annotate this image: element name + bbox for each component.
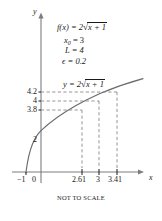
function-definition-annotation: f(x) = 2√x + 1	[57, 22, 107, 32]
y-tick-label-2: 2	[17, 136, 37, 144]
x-tick-label-3: 3	[96, 176, 100, 184]
y-tick-label-3-8: 3.8	[17, 106, 37, 114]
x-tick-label-2-61: 2.61	[72, 176, 86, 184]
y-axis-label: y	[33, 8, 37, 16]
x-axis-arrowhead	[138, 169, 144, 174]
x-tick-label-0: 0	[32, 176, 36, 184]
function-lead: f(x) = 2	[57, 22, 83, 32]
epsilon-annotation: ϵ = 0.2	[62, 57, 86, 66]
function-radicand: x + 1	[87, 22, 107, 32]
limit-epsilon-delta-figure: y x f(x) = 2√x + 1 x0 = 3 L = 4 ϵ = 0.2 …	[0, 0, 162, 221]
y-tick-label-4: 4	[17, 97, 37, 105]
y-axis-arrowhead	[38, 13, 43, 19]
x-tick-label-3-41: 3.41	[108, 176, 122, 184]
curve-label-lead: y = 2	[63, 79, 81, 89]
curve-equation-label: y = 2√x + 1	[63, 79, 105, 89]
curve-label-radicand: x + 1	[85, 79, 105, 89]
function-curve	[26, 79, 143, 172]
x-axis-label: x	[149, 174, 153, 182]
not-to-scale-note: NOT TO SCALE	[57, 195, 105, 202]
x0-equation: = 3	[73, 35, 84, 45]
limit-value-annotation: L = 4	[65, 46, 84, 55]
x-tick-label-minus-1: −1	[17, 176, 26, 184]
y-tick-label-4-2: 4.2	[17, 88, 37, 96]
